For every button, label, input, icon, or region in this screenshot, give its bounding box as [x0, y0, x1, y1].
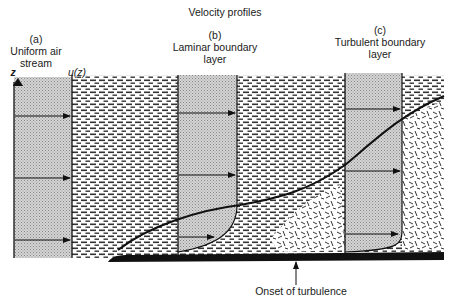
panel-c-line2: layer — [320, 48, 440, 60]
turbulent-eddies-right — [402, 100, 444, 250]
panel-b-line2: layer — [160, 53, 270, 65]
panel-c-letter: (c) — [320, 24, 440, 36]
panel-b-letter: (b) — [160, 29, 270, 41]
z-axis-label: z — [7, 66, 19, 78]
panel-b-profile — [178, 75, 237, 252]
panel-a-line1: Uniform air — [0, 45, 72, 57]
onset-annotation: Onset of turbulence — [246, 285, 356, 297]
u-axis-label: u(z) — [62, 66, 92, 78]
panel-b-line1: Laminar boundary — [160, 41, 270, 53]
diagram-title: Velocity profiles — [170, 6, 280, 18]
panel-a-profile — [14, 77, 72, 258]
panel-b-caption: (b) Laminar boundary layer — [160, 29, 270, 65]
panel-a-letter: (a) — [0, 33, 72, 45]
panel-a-caption: (a) Uniform air stream — [0, 33, 72, 69]
panel-c-profile — [345, 73, 402, 252]
panel-c-line1: Turbulent boundary — [320, 36, 440, 48]
panel-c-caption: (c) Turbulent boundary layer — [320, 24, 440, 60]
